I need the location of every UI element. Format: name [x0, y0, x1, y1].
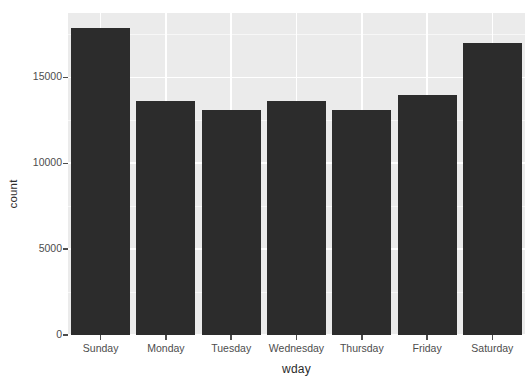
y-axis-tick-label: 15000 — [0, 70, 62, 84]
plot-panel — [68, 13, 525, 335]
y-axis-tick-label: 5000 — [0, 242, 62, 256]
bar — [71, 28, 130, 335]
y-axis-tick-mark — [63, 334, 68, 336]
bar — [398, 95, 457, 335]
y-axis-tick-labels: 150001000050000 — [0, 0, 62, 388]
x-axis-tick-mark — [361, 335, 363, 340]
x-axis-tick-label: Saturday — [432, 342, 532, 354]
x-axis-tick-mark — [492, 335, 494, 340]
y-axis-tick-mark — [63, 163, 68, 165]
x-axis-tick-mark — [426, 335, 428, 340]
x-axis-tick-mark — [296, 335, 298, 340]
x-axis-tick-mark — [100, 335, 102, 340]
bar — [202, 110, 261, 335]
bar — [136, 101, 195, 335]
bar-chart: count 150001000050000 SundayMondayTuesda… — [0, 0, 532, 388]
bar — [267, 101, 326, 335]
bar — [332, 110, 391, 335]
x-axis-title: wday — [68, 362, 525, 376]
x-axis-tick-mark — [230, 335, 232, 340]
x-axis-tick-labels: SundayMondayTuesdayWednesdayThursdayFrid… — [68, 335, 525, 361]
y-axis-tick-label: 10000 — [0, 156, 62, 170]
y-axis-tick-label: 0 — [0, 328, 62, 342]
y-axis-tick-mark — [63, 77, 68, 79]
x-axis-tick-mark — [165, 335, 167, 340]
bar — [463, 43, 522, 335]
y-axis-tick-mark — [63, 248, 68, 250]
